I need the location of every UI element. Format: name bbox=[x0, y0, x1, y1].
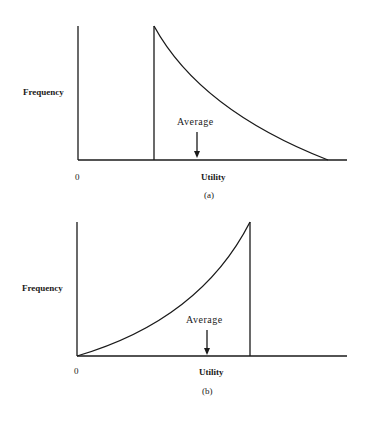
charts-canvas bbox=[0, 0, 367, 421]
arrowhead-b bbox=[204, 348, 210, 355]
ylabel-b: Frequency bbox=[22, 283, 63, 293]
caption-a: (a) bbox=[204, 190, 214, 200]
average-label-a: Average bbox=[177, 116, 214, 127]
zero-label-a: 0 bbox=[75, 172, 80, 182]
zero-label-b: 0 bbox=[74, 366, 79, 376]
chart-a bbox=[78, 26, 347, 160]
arrowhead-a bbox=[194, 151, 200, 158]
xlabel-b: Utility bbox=[199, 367, 224, 377]
average-label-b: Average bbox=[186, 314, 223, 325]
xlabel-a: Utility bbox=[201, 172, 226, 182]
curve-a bbox=[154, 26, 328, 160]
curve-b bbox=[77, 222, 250, 356]
chart-b bbox=[77, 222, 347, 356]
caption-b: (b) bbox=[202, 386, 213, 396]
ylabel-a: Frequency bbox=[23, 87, 64, 97]
